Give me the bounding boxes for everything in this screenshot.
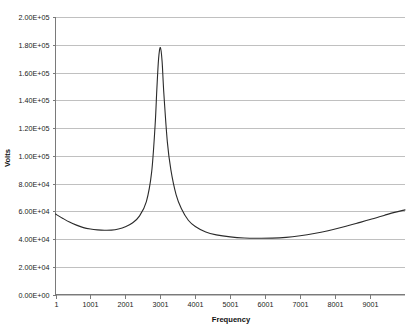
volts-vs-frequency-line-chart: 0.00E+002.00E+044.00E+046.00E+048.00E+04… bbox=[0, 0, 419, 330]
x-tick-label: 4001 bbox=[188, 300, 204, 309]
x-axis-title: Frequency bbox=[212, 315, 251, 324]
y-tick-label: 1.20E+05 bbox=[19, 124, 50, 133]
y-axis-title: Volts bbox=[3, 149, 12, 167]
y-tick-label: 1.60E+05 bbox=[19, 69, 50, 78]
x-tick-label: 3001 bbox=[153, 300, 169, 309]
y-tick-label: 0.00E+00 bbox=[19, 291, 50, 300]
x-tick-label: 8001 bbox=[328, 300, 344, 309]
y-tick-label: 6.00E+04 bbox=[19, 207, 50, 216]
x-tick-label: 7001 bbox=[293, 300, 309, 309]
chart-container: 0.00E+002.00E+044.00E+046.00E+048.00E+04… bbox=[0, 0, 419, 330]
x-tick-label: 1001 bbox=[83, 300, 99, 309]
y-tick-label: 4.00E+04 bbox=[19, 235, 50, 244]
y-tick-label: 1.40E+05 bbox=[19, 96, 50, 105]
y-tick-label: 2.00E+05 bbox=[19, 13, 50, 22]
x-tick-label: 6001 bbox=[258, 300, 274, 309]
y-tick-label: 8.00E+04 bbox=[19, 180, 50, 189]
y-tick-label: 1.00E+05 bbox=[19, 152, 50, 161]
x-tick-label: 5001 bbox=[223, 300, 239, 309]
x-tick-label: 1 bbox=[55, 300, 59, 309]
y-tick-label: 2.00E+04 bbox=[19, 263, 50, 272]
x-tick-label: 2001 bbox=[118, 300, 134, 309]
chart-background bbox=[0, 0, 419, 330]
x-tick-label: 9001 bbox=[363, 300, 379, 309]
y-tick-label: 1.80E+05 bbox=[19, 41, 50, 50]
